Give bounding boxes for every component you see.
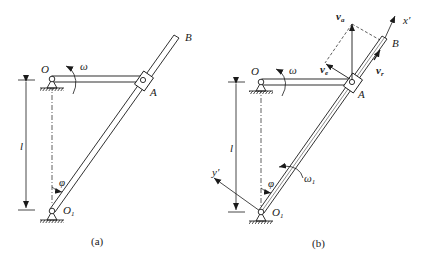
label-omega: ω <box>289 64 297 76</box>
panel-a: O ω A B l φ O1 (a) <box>18 31 192 248</box>
rod-o1b <box>50 35 179 212</box>
y-prime-axis <box>214 178 260 211</box>
label-y-prime: y′ <box>211 166 220 178</box>
label-o: O <box>251 65 259 77</box>
label-b: B <box>185 31 192 43</box>
pivot-o1 <box>40 208 64 223</box>
label-a: A <box>149 86 157 98</box>
label-b: B <box>392 37 399 49</box>
label-o: O <box>41 63 49 75</box>
label-o1: O1 <box>272 206 283 220</box>
caption-a: (a) <box>91 235 104 248</box>
mechanism-diagram: O ω A B l φ O1 (a) <box>0 0 424 267</box>
parallelogram <box>325 24 380 63</box>
label-o1: O1 <box>63 204 74 218</box>
label-x-prime: x′ <box>402 14 411 26</box>
x-prime-axis <box>385 16 395 38</box>
crank-oa <box>52 76 144 82</box>
label-vr: vr <box>376 64 384 78</box>
label-phi: φ <box>59 176 65 188</box>
label-l: l <box>230 142 233 154</box>
label-ve: ve <box>320 63 328 77</box>
panel-b: O ω A B x′ y′ va ve vr l φ ω1 O1 (b) <box>211 10 411 250</box>
pivot-o1 <box>249 209 273 224</box>
caption-b: (b) <box>312 237 325 250</box>
crank-oa <box>262 79 353 85</box>
label-phi: φ <box>268 177 274 189</box>
ve-vector <box>326 64 350 79</box>
label-l: l <box>20 140 23 152</box>
label-omega: ω <box>80 60 88 72</box>
label-va: va <box>336 10 345 24</box>
label-omega1: ω1 <box>304 172 315 186</box>
label-a: A <box>357 88 365 100</box>
